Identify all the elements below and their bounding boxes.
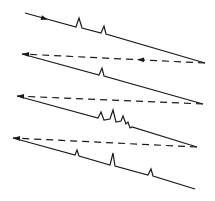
trace-1-line xyxy=(25,13,205,63)
retrace-2-line xyxy=(17,96,203,104)
raster-scan-diagram xyxy=(0,0,215,201)
direction-arrows xyxy=(13,15,144,140)
retrace-1-end-arrow-icon xyxy=(22,52,29,57)
scan-lines xyxy=(13,13,205,189)
retrace-1-arrow-icon xyxy=(137,57,144,62)
trace-3-line xyxy=(17,96,197,147)
retrace-3-end-arrow-icon xyxy=(13,136,20,141)
retrace-2-end-arrow-icon xyxy=(17,94,24,99)
